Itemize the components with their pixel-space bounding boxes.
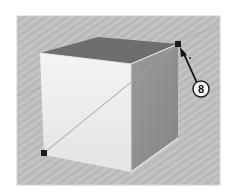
cursor-dot <box>189 57 191 59</box>
cube-diagram: 8 <box>0 0 235 196</box>
callout-badge: 8 <box>193 81 209 97</box>
endpoint-marker-top-right[interactable] <box>175 41 181 47</box>
cube-front-face <box>40 53 131 172</box>
endpoint-marker-bottom-left[interactable] <box>41 150 47 156</box>
callout-label: 8 <box>198 83 204 95</box>
